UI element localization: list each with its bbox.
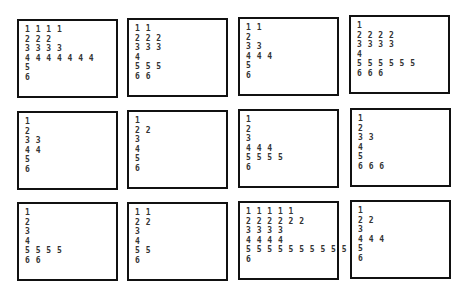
panel-line: 2	[246, 125, 337, 135]
digit-panel-8: 1 2 3 3 4 5 6 6 6	[350, 108, 451, 187]
panel-line: 6	[246, 255, 337, 265]
panel-line: 1 1	[135, 208, 226, 218]
digit-panel-1: 1 1 1 1 2 2 2 3 3 3 3 4 4 4 4 4 4 4 5 6	[17, 19, 118, 98]
panel-line: 5	[135, 154, 226, 164]
panel-line: 2 2	[135, 218, 226, 228]
panel-line: 2	[25, 127, 116, 137]
digit-panel-2: 1 1 2 2 2 3 3 3 4 5 5 5 6 6	[127, 18, 228, 97]
digit-panel-9: 1 2 3 4 5 5 5 5 6 6	[17, 202, 118, 281]
digit-panel-5: 1 2 3 3 4 4 5 6	[17, 111, 118, 190]
panel-line: 4	[357, 50, 448, 60]
panel-line: 4 4 4 4	[246, 236, 337, 246]
panel-line: 4 4 4 4 4 4 4	[25, 54, 116, 64]
panel-line: 6	[246, 71, 337, 81]
panel-line: 2	[358, 124, 449, 134]
panel-line: 5	[25, 63, 116, 73]
panel-line: 6	[135, 164, 226, 174]
panel-line: 5 5 5 5	[246, 153, 337, 163]
panel-line: 5	[25, 155, 116, 165]
panel-line: 6	[358, 254, 449, 264]
digit-panel-3: 1 1 2 3 3 4 4 4 5 6	[238, 17, 339, 96]
panel-line: 6 6 6	[358, 162, 449, 172]
panel-line: 5 5 5	[135, 62, 226, 72]
panel-line: 5	[358, 244, 449, 254]
panel-line: 3 3 3 3	[25, 44, 116, 54]
panel-line: 4	[135, 145, 226, 155]
panel-line: 3	[135, 135, 226, 145]
digit-panel-12: 1 2 2 3 4 4 4 5 6	[350, 200, 451, 279]
panel-line: 3	[358, 225, 449, 235]
panel-line: 4 4 4	[358, 235, 449, 245]
panel-line: 2	[25, 218, 116, 228]
digit-panel-4: 1 2 2 2 2 3 3 3 3 4 5 5 5 5 5 5 6 6 6	[349, 15, 450, 94]
panel-line: 1	[135, 116, 226, 126]
digit-panel-7: 1 2 3 4 4 4 5 5 5 5 6	[238, 109, 339, 188]
panel-line: 1	[357, 21, 448, 31]
panel-line: 2 2	[358, 216, 449, 226]
panel-line: 4 4	[25, 146, 116, 156]
panel-line: 2 2 2 2	[357, 31, 448, 41]
panel-line: 1 1	[135, 24, 226, 34]
panel-line: 5 5 5 5 5 5 5 5 5 5 5	[246, 245, 337, 255]
panel-line: 6	[246, 163, 337, 173]
panel-line: 4	[358, 143, 449, 153]
panel-line: 2 2	[135, 126, 226, 136]
panel-line: 6 6	[135, 72, 226, 82]
panel-line: 6	[135, 256, 226, 266]
panel-line: 5 5 5 5 5 5	[357, 59, 448, 69]
panel-line: 3	[246, 134, 337, 144]
panel-line: 4	[135, 53, 226, 63]
panel-line: 1	[358, 206, 449, 216]
digit-panel-11: 1 1 1 1 1 2 2 2 2 2 2 3 3 3 3 4 4 4 4 5 …	[238, 201, 339, 280]
panel-line: 2 2 2	[25, 35, 116, 45]
panel-line: 6	[25, 165, 116, 175]
panel-line: 1	[358, 114, 449, 124]
panel-line: 3	[135, 227, 226, 237]
panel-line: 3 3	[246, 42, 337, 52]
panel-line: 6	[25, 73, 116, 83]
panel-line: 4	[25, 237, 116, 247]
panel-line: 1	[25, 117, 116, 127]
panel-line: 1 1	[246, 23, 337, 33]
panel-line: 6 6	[25, 256, 116, 266]
panel-line: 5	[358, 152, 449, 162]
panel-line: 2 2 2	[135, 34, 226, 44]
panel-line: 3 3	[358, 133, 449, 143]
digit-panel-10: 1 1 2 2 3 4 5 5 6	[127, 202, 228, 281]
panel-line: 6 6 6	[357, 69, 448, 79]
panel-line: 4 4 4	[246, 52, 337, 62]
panel-line: 2 2 2 2 2 2	[246, 217, 337, 227]
panel-line: 3	[25, 227, 116, 237]
panel-line: 1	[25, 208, 116, 218]
digit-panel-6: 1 2 2 3 4 5 6	[127, 110, 228, 189]
panel-line: 3 3	[25, 136, 116, 146]
panel-line: 4 4 4	[246, 144, 337, 154]
panel-line: 3 3 3 3	[246, 226, 337, 236]
panel-line: 3 3 3	[135, 43, 226, 53]
panel-line: 2	[246, 33, 337, 43]
panel-line: 1 1 1 1	[25, 25, 116, 35]
panel-line: 5	[246, 61, 337, 71]
panel-line: 4	[135, 237, 226, 247]
panel-line: 1	[246, 115, 337, 125]
panel-line: 1 1 1 1 1	[246, 207, 337, 217]
panel-line: 3 3 3 3	[357, 40, 448, 50]
panel-line: 5 5	[135, 246, 226, 256]
panel-line: 5 5 5 5	[25, 246, 116, 256]
